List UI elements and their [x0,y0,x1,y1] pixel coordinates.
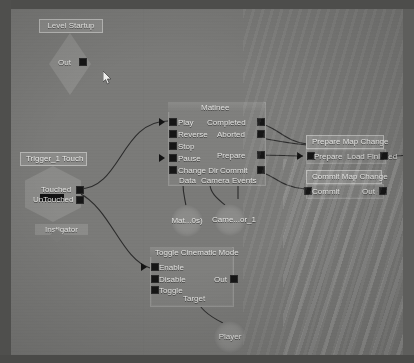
toggle-out-pin[interactable] [230,275,238,283]
wire-camera-var [210,184,225,205]
matinee-commit-pin[interactable] [257,166,265,174]
prepare-map-change-out-label: Load Finished [347,152,397,161]
wire-touched-to-enable [79,193,150,268]
matinee-pause-label: Pause [178,154,201,163]
commit-map-change-in-pin[interactable] [304,187,312,195]
matinee-pause-pin[interactable] [169,154,177,162]
toggle-out-label: Out [214,275,227,284]
commit-map-change-out-label: Out [362,187,375,196]
trigger-touched-pin[interactable] [76,186,84,194]
prepare-map-change-out-pin[interactable] [380,152,388,160]
toggle-target-var-label[interactable]: Target [183,294,205,303]
trigger-touched-label: Touched [41,185,71,194]
commit-map-change-in-label: Commit [312,187,340,196]
matinee-camera-var-label[interactable]: Camera [201,176,229,185]
commit-map-change-out-pin[interactable] [379,187,387,195]
trigger-touch-title: Trigger_1 Touch [20,152,87,166]
matinee-play-label: Play [178,118,194,127]
prepare-map-change-title: Prepare Map Change [306,135,384,149]
bezel-left-edge [0,0,11,363]
toggle-enable-label: Enable [159,263,184,272]
trigger-untouched-label: UnTouched [33,195,73,204]
matinee-completed-label: Completed [207,118,246,127]
matinee-aborted-pin[interactable] [257,130,265,138]
matinee-play-arrow [159,118,165,126]
matinee-prepare-label: Prepare [217,151,245,160]
matinee-stop-pin[interactable] [169,142,177,150]
matinee-commit-label: Commit [220,166,248,175]
matinee-reverse-label: Reverse [178,130,208,139]
level-startup-out-label: Out [58,58,71,67]
matinee-data-var-label[interactable]: Data [179,176,196,185]
toggle-cinematic-title: Toggle Cinematic Mode [155,248,239,257]
matinee-stop-label: Stop [178,142,194,151]
screenshot-root: Level Startup Out Trigger_1 Touch Touche… [0,0,414,363]
prepare-map-change-in-label: Prepare [314,152,342,161]
var-camera-actor-label: Came...or_1 [212,215,248,224]
toggle-enable-arrow [141,263,147,271]
bezel-top-edge [0,0,414,9]
toggle-disable-pin[interactable] [151,275,159,283]
bezel-bottom-edge [0,355,414,363]
matinee-events-var-label[interactable]: Events [232,176,256,185]
toggle-toggle-label: Toggle [159,286,183,295]
matinee-prepare-pin[interactable] [257,151,265,159]
sequence-graph-canvas[interactable]: Level Startup Out Trigger_1 Touch Touche… [11,9,403,355]
var-matinee-data-label: Mat...0s) [171,216,203,225]
toggle-disable-label: Disable [159,275,186,284]
toggle-enable-pin[interactable] [151,263,159,271]
matinee-changedir-pin[interactable] [169,166,177,174]
matinee-completed-pin[interactable] [257,118,265,126]
prepare-map-change-in-arrow [297,152,303,160]
matinee-reverse-pin[interactable] [169,130,177,138]
level-startup-out-pin[interactable] [79,58,87,66]
matinee-title: Matinee [201,103,229,112]
var-player-label: Player [214,332,246,341]
mouse-cursor [103,71,112,85]
wire-touched-to-play [79,121,168,189]
wire-data-var [183,184,186,206]
matinee-aborted-label: Aborted [217,130,245,139]
matinee-play-pin[interactable] [169,118,177,126]
matinee-changedir-label: Change Dir [178,166,218,175]
commit-map-change-title: Commit Map Change [306,170,382,184]
graph-guide-line [143,9,144,355]
toggle-toggle-pin[interactable] [151,286,159,294]
level-startup-title: Level Startup [39,19,103,33]
matinee-pause-arrow [159,154,165,162]
trigger-untouched-pin[interactable] [76,196,84,204]
